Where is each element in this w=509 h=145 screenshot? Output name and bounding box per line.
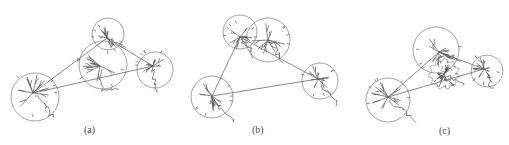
panel-c	[366, 27, 503, 123]
dendrite-sketch	[135, 50, 163, 92]
dendrite-sketch	[91, 25, 126, 54]
caption-a: (a)	[84, 124, 95, 135]
panel-b	[191, 15, 338, 122]
panels-group	[11, 15, 503, 123]
connection-line	[240, 37, 318, 79]
caption-c: (c)	[439, 125, 450, 136]
connection-line	[107, 38, 153, 66]
neuron-circle	[366, 78, 410, 122]
dendrite-sketch	[223, 21, 257, 59]
dendrite-sketch	[437, 61, 464, 88]
neuron-circle	[11, 73, 59, 121]
connection-line	[212, 37, 240, 96]
dendrite-sketch	[16, 75, 57, 117]
caption-b: (b)	[252, 124, 264, 135]
neuron-circle	[79, 41, 127, 89]
dendrite-sketch	[367, 78, 416, 122]
connection-line	[212, 79, 318, 96]
dendrite-sketch	[301, 66, 337, 107]
neuron-circle	[223, 15, 257, 49]
panel-a	[11, 18, 173, 121]
connection-line	[388, 52, 439, 97]
